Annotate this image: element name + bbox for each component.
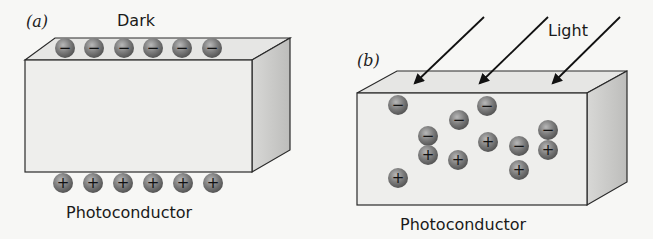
positive-charge: + xyxy=(173,173,193,193)
svg-text:−: − xyxy=(481,97,494,115)
svg-text:+: + xyxy=(513,161,526,179)
positive-charge: + xyxy=(448,150,468,170)
negative-charge: − xyxy=(143,38,163,58)
panel-a-label: (a) xyxy=(26,12,48,31)
svg-text:−: − xyxy=(88,39,101,57)
svg-text:−: − xyxy=(206,39,219,57)
positive-charge: + xyxy=(143,173,163,193)
negative-charge: − xyxy=(55,38,75,58)
positive-charges-bottom: + + + + + + xyxy=(53,173,223,193)
photoconductor-diagram: (a) Dark − − − − − − + + + + + + Photoco… xyxy=(0,0,653,239)
positive-charge: + xyxy=(113,173,133,193)
negative-charge: − xyxy=(538,120,558,140)
negative-charge: − xyxy=(172,38,192,58)
negative-charge: − xyxy=(202,38,222,58)
negative-charge: − xyxy=(114,38,134,58)
positive-charge: + xyxy=(203,173,223,193)
svg-text:+: + xyxy=(87,174,100,192)
positive-charge: + xyxy=(83,173,103,193)
svg-text:+: + xyxy=(57,174,70,192)
panel-a: (a) Dark − − − − − − + + + + + + Photoco… xyxy=(25,11,290,222)
photoconductor-label-b: Photoconductor xyxy=(400,215,527,234)
negative-charge: − xyxy=(477,96,497,116)
svg-text:+: + xyxy=(542,141,555,159)
photoconductor-label-a: Photoconductor xyxy=(66,203,193,222)
svg-text:−: − xyxy=(147,39,160,57)
svg-text:−: − xyxy=(422,127,435,145)
positive-charge: + xyxy=(388,168,408,188)
svg-text:+: + xyxy=(117,174,130,192)
light-label: Light xyxy=(548,21,588,40)
svg-text:+: + xyxy=(392,169,405,187)
positive-charge: + xyxy=(418,145,438,165)
svg-text:−: − xyxy=(513,137,526,155)
svg-text:−: − xyxy=(542,121,555,139)
photoconductor-box-a xyxy=(25,38,290,172)
svg-text:+: + xyxy=(422,146,435,164)
positive-charge: + xyxy=(53,173,73,193)
svg-text:−: − xyxy=(453,111,466,129)
negative-charge: − xyxy=(388,95,408,115)
svg-text:+: + xyxy=(177,174,190,192)
svg-text:+: + xyxy=(452,151,465,169)
negative-charge: − xyxy=(84,38,104,58)
positive-charge: + xyxy=(538,140,558,160)
negative-charge: − xyxy=(449,110,469,130)
negative-charge: − xyxy=(509,136,529,156)
svg-text:−: − xyxy=(59,39,72,57)
svg-text:−: − xyxy=(392,96,405,114)
svg-text:+: + xyxy=(207,174,220,192)
positive-charge: + xyxy=(509,160,529,180)
negative-charge: − xyxy=(418,126,438,146)
dark-label: Dark xyxy=(117,11,156,30)
positive-charge: + xyxy=(478,132,498,152)
svg-text:+: + xyxy=(147,174,160,192)
svg-text:+: + xyxy=(482,133,495,151)
panel-b-label: (b) xyxy=(357,51,380,70)
svg-text:−: − xyxy=(118,39,131,57)
panel-b: (b) Light − − − − + + + − + − + + Photoc… xyxy=(357,17,627,234)
svg-text:−: − xyxy=(176,39,189,57)
